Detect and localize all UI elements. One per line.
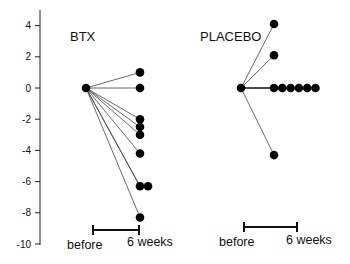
data-point — [270, 151, 279, 160]
data-point — [136, 123, 145, 132]
y-tick-label: -6 — [22, 176, 31, 187]
data-point — [136, 213, 145, 222]
baseline-point — [82, 84, 91, 93]
data-point — [136, 115, 145, 124]
data-point — [136, 149, 145, 158]
y-tick-label: -2 — [22, 114, 31, 125]
y-tick-label: 0 — [25, 83, 31, 94]
data-point — [270, 51, 279, 60]
plot-area: 420-2-4-6-8-10 BTX PLACEBO before 6 week… — [0, 0, 350, 264]
btx-time-bar — [93, 225, 139, 235]
y-tick-label: -4 — [22, 145, 31, 156]
data-point — [136, 182, 145, 191]
y-tick-label: 4 — [25, 20, 31, 31]
chart: 420-2-4-6-8-10 BTX PLACEBO before 6 week… — [0, 0, 350, 264]
data-point — [286, 84, 295, 93]
data-point — [303, 84, 312, 93]
y-tick-label: 2 — [25, 51, 31, 62]
y-ticks: 420-2-4-6-8-10 — [17, 20, 40, 249]
data-point — [144, 182, 153, 191]
panel-label-placebo: PLACEBO — [200, 29, 261, 44]
data-point — [136, 68, 145, 77]
data-point — [136, 131, 145, 140]
data-point — [295, 84, 304, 93]
data-point — [270, 20, 279, 29]
data-point — [311, 84, 320, 93]
btx-series — [82, 68, 153, 222]
data-point — [136, 84, 145, 93]
data-point — [278, 84, 287, 93]
baseline-point — [237, 84, 246, 93]
panel-label-btx: BTX — [70, 29, 96, 44]
data-point — [270, 84, 279, 93]
y-tick-label: -10 — [17, 239, 32, 250]
btx-after-label: 6 weeks — [127, 235, 173, 249]
placebo-after-label: 6 weeks — [286, 233, 332, 247]
btx-before-label: before — [67, 238, 102, 252]
y-tick-label: -8 — [22, 207, 31, 218]
placebo-time-bar — [244, 222, 297, 232]
placebo-before-label: before — [219, 235, 254, 249]
